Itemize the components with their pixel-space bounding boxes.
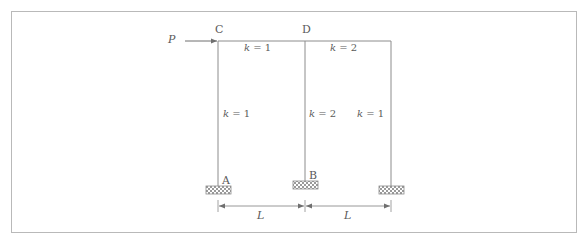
column-right-stiffness-label: k = 1	[357, 109, 384, 119]
dimension-label-span-left: L	[257, 210, 264, 221]
joint-label-B: B	[309, 170, 317, 181]
beam-right-stiffness-label: k = 2	[330, 43, 357, 53]
beam-right-equals: =	[336, 42, 351, 53]
beam-left-k-value: 1	[265, 42, 271, 53]
frame-drawing	[0, 0, 588, 245]
dimension-line-group	[218, 200, 391, 212]
dimension-label-span-right: L	[344, 210, 351, 221]
load-label-P: P	[168, 34, 175, 45]
column-left-k-value: 1	[244, 108, 250, 119]
support-left	[206, 186, 231, 194]
beam-right-k-value: 2	[351, 42, 357, 53]
joint-label-C: C	[215, 24, 223, 35]
column-left-stiffness-label: k = 1	[223, 109, 250, 119]
support-middle-block	[293, 181, 318, 189]
column-middle-stiffness-label: k = 2	[309, 109, 336, 119]
support-middle	[293, 181, 318, 189]
beam-left-equals: =	[250, 42, 265, 53]
figure-root: C D A B P k = 1 k = 2 k = 1 k = 2 k = 1 …	[0, 0, 588, 245]
joint-label-A: A	[222, 175, 230, 186]
column-middle-equals: =	[315, 108, 330, 119]
column-right-k-value: 1	[378, 108, 384, 119]
column-middle-k-value: 2	[330, 108, 336, 119]
column-left-equals: =	[229, 108, 244, 119]
support-left-block	[206, 186, 231, 194]
beam-left-stiffness-label: k = 1	[244, 43, 271, 53]
joint-label-D: D	[302, 24, 311, 35]
support-right-block	[379, 186, 404, 194]
column-right-equals: =	[363, 108, 378, 119]
support-right	[379, 186, 404, 194]
